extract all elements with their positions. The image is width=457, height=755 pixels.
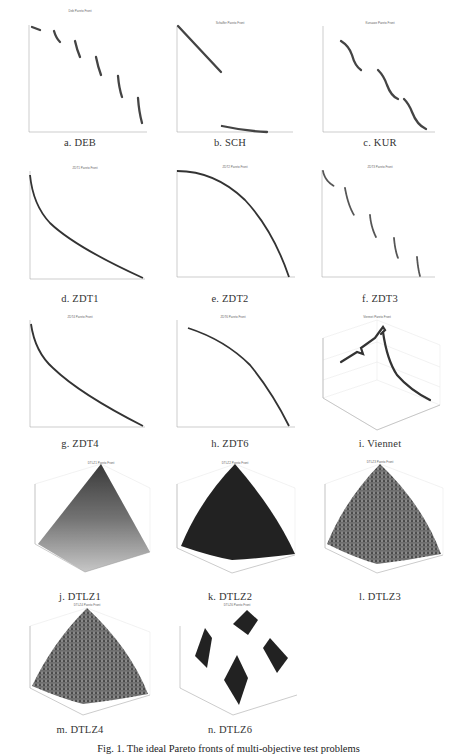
panel-sch: Schaffer Pareto Front b. SCH [155, 0, 305, 150]
svg-text:ZDT6 Pareto Front: ZDT6 Pareto Front [220, 315, 245, 319]
panel-kur: Kursawe Pareto Front c. KUR [305, 0, 455, 150]
svg-text:Kursawe Pareto Front: Kursawe Pareto Front [365, 21, 394, 25]
panel-deb: Deb Pareto Front a. DEB [5, 0, 155, 150]
viennet-plot: Viennet Pareto Front [305, 310, 455, 435]
svg-text:DTLZ3 Pareto Front: DTLZ3 Pareto Front [367, 460, 394, 464]
dtlz1-plot: DTLZ1 Pareto Front [5, 460, 155, 585]
dtlz4-plot: DTLZ4 Pareto Front [5, 600, 155, 725]
panel-label: n. DTLZ6 [155, 724, 305, 735]
zdt1-plot: ZDT1 Pareto Front [5, 155, 155, 290]
sch-plot: Schaffer Pareto Front [155, 0, 305, 135]
svg-text:Schaffer Pareto Front: Schaffer Pareto Front [216, 21, 245, 25]
panel-label: f. ZDT3 [305, 293, 455, 304]
zdt2-plot: ZDT2 Pareto Front [155, 155, 305, 290]
panel-dtlz3: DTLZ3 Pareto Front l. DTLZ3 [305, 460, 455, 610]
svg-text:Deb Pareto Front: Deb Pareto Front [68, 9, 91, 13]
panel-dtlz4: DTLZ4 Pareto Front m. DTLZ4 [5, 600, 155, 750]
panel-zdt6: ZDT6 Pareto Front h. ZDT6 [155, 310, 305, 460]
svg-text:ZDT3 Pareto Front: ZDT3 Pareto Front [367, 165, 392, 169]
panel-dtlz2: DTLZ2 Pareto Front k. DTLZ2 [155, 460, 305, 610]
panel-zdt4: ZDT4 Pareto Front g. ZDT4 [5, 310, 155, 460]
panel-label: l. DTLZ3 [305, 591, 455, 602]
zdt4-plot: ZDT4 Pareto Front [5, 310, 155, 435]
svg-text:ZDT4 Pareto Front: ZDT4 Pareto Front [67, 315, 92, 319]
panel-label: c. KUR [305, 137, 455, 148]
svg-text:ZDT2 Pareto Front: ZDT2 Pareto Front [222, 165, 247, 169]
panel-label: d. ZDT1 [5, 293, 155, 304]
svg-text:ZDT1 Pareto Front: ZDT1 Pareto Front [72, 166, 97, 170]
panel-label: b. SCH [155, 137, 305, 148]
svg-text:Viennet Pareto Front: Viennet Pareto Front [363, 315, 391, 319]
panel-dtlz1: DTLZ1 Pareto Front j. DTLZ1 [5, 460, 155, 610]
panel-zdt2: ZDT2 Pareto Front e. ZDT2 [155, 155, 305, 305]
panel-label: m. DTLZ4 [5, 724, 155, 735]
kur-plot: Kursawe Pareto Front [305, 0, 455, 135]
dtlz6-plot: DTLZ6 Pareto Front [155, 600, 305, 725]
panel-zdt1: ZDT1 Pareto Front d. ZDT1 [5, 155, 155, 305]
panel-label: h. ZDT6 [155, 438, 305, 449]
zdt3-plot: ZDT3 Pareto Front [305, 155, 455, 290]
panel-label: i. Viennet [305, 438, 455, 449]
panel-label: e. ZDT2 [155, 293, 305, 304]
zdt6-plot: ZDT6 Pareto Front [155, 310, 305, 435]
panel-label: a. DEB [5, 137, 155, 148]
dtlz3-plot: DTLZ3 Pareto Front [305, 460, 455, 585]
dtlz2-plot: DTLZ2 Pareto Front [155, 460, 305, 585]
panel-viennet: Viennet Pareto Front i. Viennet [305, 310, 455, 460]
svg-text:DTLZ6 Pareto Front: DTLZ6 Pareto Front [224, 603, 251, 607]
figure-caption: Fig. 1. The ideal Pareto fronts of multi… [0, 743, 457, 754]
panel-label: g. ZDT4 [5, 438, 155, 449]
panel-zdt3: ZDT3 Pareto Front f. ZDT3 [305, 155, 455, 305]
svg-text:DTLZ4 Pareto Front: DTLZ4 Pareto Front [74, 603, 101, 607]
deb-plot: Deb Pareto Front [5, 0, 155, 135]
panel-dtlz6: DTLZ6 Pareto Front n. DTLZ6 [155, 600, 305, 750]
